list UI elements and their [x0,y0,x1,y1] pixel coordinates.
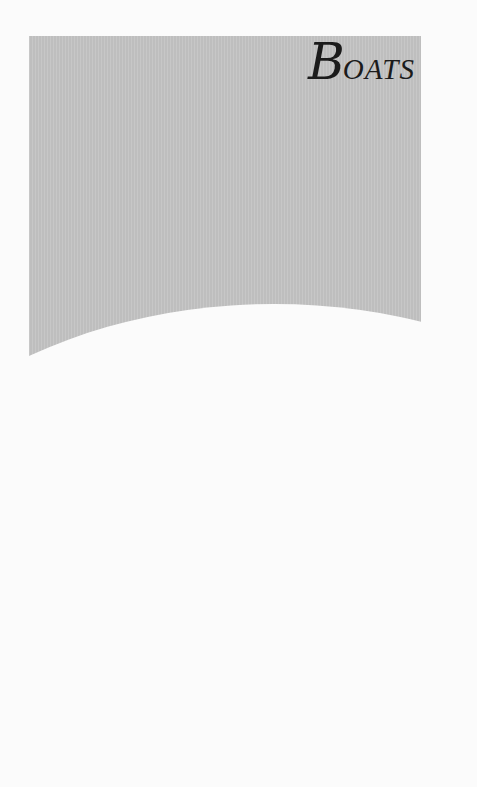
gray-header-panel [29,36,421,436]
page-title: BOATS [308,33,415,91]
title-rest: OATS [343,53,415,85]
title-initial: B [308,33,343,91]
white-arc-shape [29,304,421,436]
